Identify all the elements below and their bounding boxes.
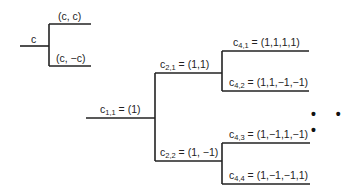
c21-value: = (1,1) <box>179 58 210 70</box>
c11-label: c1,1 = (1) <box>100 104 141 117</box>
c42-sub: 4,2 <box>234 81 244 90</box>
c44-sub: 4,4 <box>234 174 244 183</box>
c41-sub: 4,1 <box>238 41 248 50</box>
left-root-label: c <box>31 34 36 45</box>
c43-value: = (1,−1,1,−1) <box>248 128 308 140</box>
tree-lines <box>0 0 364 194</box>
left-lower-label: (c, −c) <box>56 53 85 64</box>
c22-value: = (1, −1) <box>179 146 219 158</box>
c43-label: c4,3 = (1,−1,1,−1) <box>229 129 308 142</box>
c44-label: c4,4 = (1,−1,−1,1) <box>229 170 308 183</box>
c41-label: c4,1 = (1,1,1,1) <box>233 37 300 50</box>
c22-label: c2,2 = (1, −1) <box>160 147 218 160</box>
c11-value: = (1) <box>119 103 141 115</box>
continuation-ellipsis: • • • <box>311 106 364 138</box>
c43-sub: 4,3 <box>234 133 244 142</box>
c41-value: = (1,1,1,1) <box>252 36 300 48</box>
c44-value: = (1,−1,−1,1) <box>248 169 308 181</box>
c11-sub: 1,1 <box>105 108 115 117</box>
c42-label: c4,2 = (1,1,−1,−1) <box>229 77 308 90</box>
c22-sub: 2,2 <box>165 151 175 160</box>
c21-sub: 2,1 <box>165 63 175 72</box>
left-upper-label: (c, c) <box>58 11 81 22</box>
c21-label: c2,1 = (1,1) <box>160 59 209 72</box>
c42-value: = (1,1,−1,−1) <box>248 76 308 88</box>
